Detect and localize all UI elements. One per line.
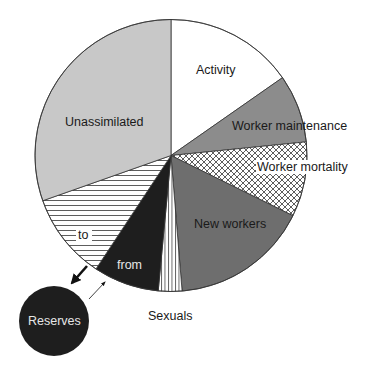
label-sexuals: Sexuals (148, 309, 192, 323)
label-to: to (78, 228, 88, 242)
label-unassimilated: Unassimilated (65, 115, 144, 129)
arrow-to-reserves (72, 266, 87, 283)
arrow-from-reserves (89, 282, 105, 299)
label-new-workers: New workers (194, 217, 266, 231)
pie-slices (35, 20, 307, 292)
label-from: from (117, 258, 142, 272)
label-activity: Activity (196, 63, 236, 77)
label-worker-maintenance: Worker maintenance (232, 119, 347, 133)
label-reserves: Reserves (28, 314, 81, 328)
energy-budget-pie-chart: Activity Worker maintenance Worker morta… (0, 0, 368, 378)
label-worker-mortality: Worker mortality (257, 160, 349, 174)
